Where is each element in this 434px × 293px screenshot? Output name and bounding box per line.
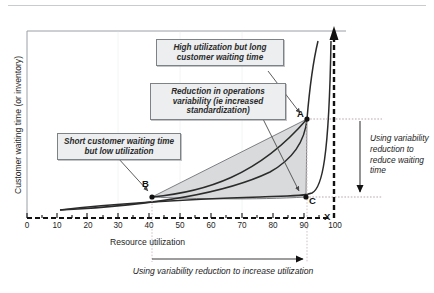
callout-variability-reduction: Reduction in operations variability (ie …: [150, 83, 286, 120]
xtick-30: 30: [108, 221, 128, 230]
xtick-60: 60: [201, 221, 221, 230]
top-rule: [8, 5, 426, 6]
axis-end-marker-x: X: [324, 211, 330, 222]
xtick-80: 80: [263, 221, 283, 230]
xtick-50: 50: [170, 221, 190, 230]
callout-high-utilization: High utilization but long customer waiti…: [156, 39, 284, 66]
diagram-canvas: Customer waiting time (or inventory) Res…: [0, 0, 434, 293]
callout-short-waiting-time: Short customer waiting time but low util…: [57, 133, 181, 160]
point-label-a: A: [297, 108, 304, 119]
xtick-70: 70: [232, 221, 252, 230]
point-label-b: B: [142, 178, 149, 189]
point-label-c: C: [309, 195, 316, 206]
note-reduce-waiting-time: Using variability reduction to reduce wa…: [370, 133, 432, 176]
note-increase-utilization: Using variability reduction to increase …: [118, 266, 328, 277]
xtick-10: 10: [47, 221, 67, 230]
xtick-90: 90: [294, 221, 314, 230]
x-axis: [27, 213, 334, 218]
xtick-100: 100: [325, 221, 345, 230]
y-axis-title: Customer waiting time (or inventory): [13, 25, 23, 225]
xtick-20: 20: [78, 221, 98, 230]
x-axis-title: Resource utilization: [110, 237, 185, 247]
xtick-40: 40: [139, 221, 159, 230]
